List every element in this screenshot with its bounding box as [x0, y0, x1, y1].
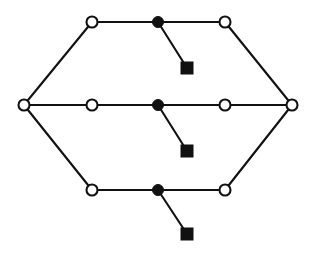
node-filled-circle-m2[interactable]	[153, 100, 164, 111]
network-diagram-canvas: Hexagonal network graph	[0, 0, 315, 257]
node-filled-circle-t2[interactable]	[153, 17, 164, 28]
edge-b3-r	[225, 105, 292, 190]
graph-svg	[0, 0, 315, 257]
edge-b2-bs	[158, 190, 187, 234]
node-filled-circle-b2[interactable]	[153, 185, 164, 196]
edge-l-b1	[24, 105, 92, 190]
edge-t2-ts	[158, 22, 187, 68]
node-open-circle-m1[interactable]	[87, 100, 98, 111]
edge-m2-ms	[158, 105, 187, 151]
node-square-bs[interactable]	[181, 228, 193, 240]
edges-layer	[24, 22, 292, 234]
node-open-circle-l[interactable]	[19, 100, 30, 111]
node-open-circle-m3[interactable]	[220, 100, 231, 111]
node-open-circle-b1[interactable]	[87, 185, 98, 196]
node-open-circle-b3[interactable]	[220, 185, 231, 196]
edge-t3-r	[225, 22, 292, 105]
node-square-ms[interactable]	[181, 145, 193, 157]
node-square-ts[interactable]	[181, 62, 193, 74]
nodes-layer	[19, 17, 298, 241]
node-open-circle-t3[interactable]	[220, 17, 231, 28]
node-open-circle-t1[interactable]	[87, 17, 98, 28]
edge-l-t1	[24, 22, 92, 105]
node-open-circle-r[interactable]	[287, 100, 298, 111]
